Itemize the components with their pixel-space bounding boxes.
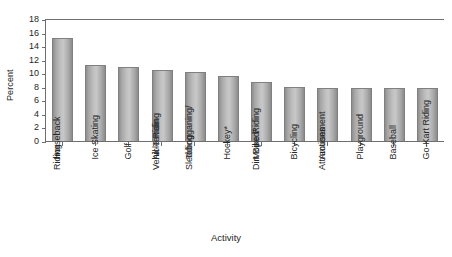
y-axis-tick-label: 6 (34, 96, 39, 105)
x-axis-category-line: Vehicle Riding (151, 160, 162, 171)
y-axis-tick-label: 12 (29, 55, 39, 64)
y-axis-tick-mark (42, 74, 46, 75)
y-axis-title: Percent (2, 52, 18, 118)
x-axis-category-line: Moped/ (250, 149, 261, 160)
x-axis-category-line: Amusement (316, 149, 327, 160)
y-axis-tick-mark (42, 61, 46, 62)
plot-area (45, 19, 444, 142)
x-axis-category-line: Hockey* (222, 149, 233, 160)
x-axis-category-line: Playground (355, 149, 366, 160)
x-axis-category-line: Go-Kart Riding (421, 149, 432, 160)
y-axis-tick-mark (42, 20, 46, 21)
x-axis-category-line: Ice Skating (90, 149, 101, 160)
y-axis-tick-label: 0 (34, 137, 39, 146)
x-axis-line (45, 141, 444, 142)
x-axis-category-line: Attractions (316, 160, 327, 171)
bar-chart: Percent 024681012141618 Activity Horseba… (0, 0, 452, 257)
y-axis-tick-mark (42, 47, 46, 48)
y-axis-tick-label: 16 (29, 28, 39, 37)
y-axis-tick-label: 2 (34, 123, 39, 132)
x-axis-title: Activity (0, 232, 452, 243)
x-axis-category-line: Dirt Bike Riding (250, 160, 261, 171)
x-axis-category-line: Tobogganing/ (184, 149, 195, 160)
y-axis-tick-mark (42, 101, 46, 102)
x-axis-category-line: Bicycling (289, 149, 300, 160)
y-axis-tick-label: 10 (29, 69, 39, 78)
x-axis-tick-mark (62, 142, 63, 146)
y-axis-tick-mark (42, 115, 46, 116)
x-axis-category-line: Horseback (51, 149, 62, 160)
x-axis-category-line: Sledding (184, 160, 195, 171)
y-axis-tick-mark (42, 142, 46, 143)
y-axis-tick-label: 8 (34, 82, 39, 91)
y-axis-tick-label: 18 (29, 15, 39, 24)
y-axis-tick-label: 4 (34, 109, 39, 118)
x-axis-category-line: All-Terrain (151, 149, 162, 160)
x-axis-category-line: Golf (123, 149, 134, 160)
x-axis-tick-mark (194, 142, 195, 146)
x-axis-tick-mark (327, 142, 328, 146)
x-axis-category-line: Riding (51, 160, 62, 171)
y-axis-tick-mark (42, 88, 46, 89)
bar (118, 67, 139, 142)
x-axis-tick-mark (161, 142, 162, 146)
x-axis-tick-mark (261, 142, 262, 146)
y-axis-tick-mark (42, 34, 46, 35)
x-axis-category-line: Baseball (388, 149, 399, 160)
y-axis-tick-labels: 024681012141618 (20, 13, 39, 143)
y-axis-tick-label: 14 (29, 42, 39, 51)
y-axis-tick-mark (42, 128, 46, 129)
